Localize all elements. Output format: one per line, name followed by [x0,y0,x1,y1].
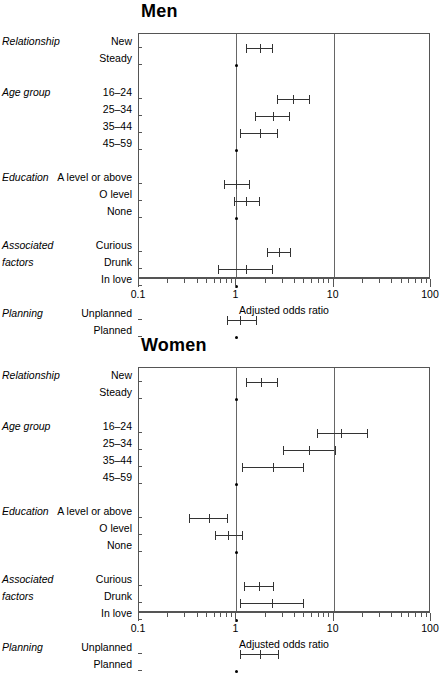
list-item: AssociatedCurious [0,571,136,588]
row-label: A level or above [57,169,132,186]
list-item: 35–44 [0,452,136,469]
row-tick [138,585,142,586]
reference-point [235,64,238,67]
axis-tick-minor [220,613,221,617]
ci-upper-cap [303,599,304,608]
row-tick [138,483,142,484]
list-item: 45–59 [0,135,136,152]
label-spacer [0,152,136,169]
list-item: 45–59 [0,469,136,486]
axis-tick-minor [197,613,198,617]
plot-area-women [138,367,430,612]
group-label-cont: factors [2,254,34,271]
point-estimate [240,316,241,325]
ci-lower-cap [224,180,225,189]
group-label: Relationship [2,33,60,50]
row-tick [138,200,142,201]
axis-tick-minor [408,279,409,283]
ci-upper-cap [277,129,278,138]
row-label: Curious [96,571,132,588]
ci-lower-cap [240,650,241,659]
axis-tick-minor [426,279,427,283]
x-axis-line [138,612,430,613]
reference-point [235,217,238,220]
ci-upper-cap [227,514,228,523]
row-tick [138,47,142,48]
axis-tick-minor [421,613,422,617]
point-estimate [246,265,247,274]
row-tick [138,132,142,133]
axis-tick-minor [184,613,185,617]
row-tick [138,251,142,252]
group-label-cont: factors [2,588,34,605]
list-item: In love [0,271,136,288]
group-label: Planning [2,639,43,656]
row-label: 45–59 [103,469,132,486]
list-item: 35–44 [0,118,136,135]
row-tick [138,466,142,467]
axis-tick-label: 100 [421,622,439,634]
axis-tick-minor [265,613,266,617]
ci-lower-cap [267,248,268,257]
axis-tick-minor [328,279,329,283]
reference-point [235,483,238,486]
ci-upper-cap [249,180,250,189]
list-item: AssociatedCurious [0,237,136,254]
point-estimate [209,514,210,523]
row-labels-women: RelationshipNewSteadyAge group16–2425–34… [0,367,136,673]
label-spacer [0,220,136,237]
list-item: EducationA level or above [0,503,136,520]
row-label: O level [99,520,132,537]
axis-tick-minor [311,279,312,283]
list-item: Steady [0,50,136,67]
axis-tick-label: 1 [232,288,238,300]
label-spacer [0,554,136,571]
point-estimate [260,650,261,659]
row-tick [138,670,142,671]
axis-tick-major [430,613,431,621]
panel-title-men: Men [141,1,178,22]
reference-point [235,149,238,152]
row-tick [138,398,142,399]
ci-lower-cap [240,129,241,138]
row-label: 16–24 [103,418,132,435]
group-label: Relationship [2,367,60,384]
axis-tick-label: 0.1 [131,622,146,634]
list-item: Steady [0,384,136,401]
axis-tick-minor [323,279,324,283]
confidence-interval [240,133,276,134]
ci-upper-cap [309,95,310,104]
confidence-interval [255,116,289,117]
ci-upper-cap [303,463,304,472]
axis-tick-major [333,613,334,621]
axis-tick-major [430,279,431,287]
ci-upper-cap [259,197,260,206]
point-estimate [309,446,310,455]
axis-tick-minor [318,279,319,283]
row-tick [138,98,142,99]
axis-tick-minor [197,279,198,283]
axis-tick-minor [415,613,416,617]
axis-tick-minor [206,613,207,617]
list-item: PlanningUnplanned [0,305,136,322]
axis-tick-minor [415,279,416,283]
panel-women: Women RelationshipNewSteadyAge group16–2… [0,333,446,665]
ci-lower-cap [277,95,278,104]
ci-lower-cap [218,265,219,274]
axis-tick-minor [323,613,324,617]
list-item: O level [0,520,136,537]
list-item: O level [0,186,136,203]
row-label: Drunk [104,588,132,605]
point-estimate [228,531,229,540]
group-label: Age group [2,84,50,101]
list-item: None [0,203,136,220]
row-label: Unplanned [81,639,132,656]
axis-tick-label: 100 [421,288,439,300]
list-item: Age group16–24 [0,84,136,101]
row-label: A level or above [57,503,132,520]
row-tick [138,64,142,65]
group-label: Education [2,503,49,520]
list-item: factorsDrunk [0,254,136,271]
list-item: factorsDrunk [0,588,136,605]
point-estimate [246,197,247,206]
